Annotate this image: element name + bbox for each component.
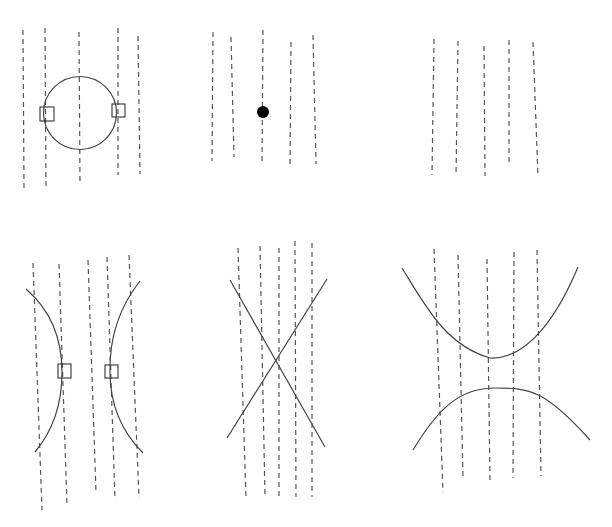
dashed-line: [45, 28, 46, 188]
dashed-line: [434, 249, 443, 492]
dashed-line: [260, 246, 265, 497]
dashed-line: [129, 255, 139, 498]
dashed-line: [537, 250, 541, 476]
dashed-line: [212, 32, 213, 161]
tangency-marker-left: [40, 107, 54, 121]
dashed-line: [231, 37, 234, 157]
panel-separated-arcs: [402, 249, 590, 492]
dashed-line: [23, 30, 24, 188]
dashed-line: [138, 36, 140, 174]
left-arc: [26, 289, 62, 452]
tangency-marker-left: [58, 364, 71, 378]
dashed-line: [432, 39, 434, 175]
panel-empty: [432, 39, 538, 177]
dashed-line: [533, 42, 538, 177]
dashed-line: [313, 35, 316, 164]
point-marker: [257, 106, 269, 118]
right-arc: [110, 281, 143, 453]
diagram-canvas: [0, 0, 612, 527]
dashed-line: [456, 41, 458, 176]
dashed-line: [487, 259, 490, 481]
dashed-line: [79, 32, 80, 184]
dashed-line: [88, 260, 96, 492]
panel-crossing: [227, 241, 327, 498]
dashed-line: [295, 241, 296, 497]
dashed-line: [262, 30, 263, 165]
panel-point: [212, 30, 316, 168]
upper-arc: [402, 267, 578, 358]
dashed-line: [513, 252, 514, 478]
dashed-line: [238, 248, 246, 498]
dashed-line: [458, 255, 463, 479]
dashed-line: [59, 264, 67, 505]
dashed-line: [484, 46, 485, 176]
panel-circle: [23, 28, 140, 188]
dashed-line: [290, 42, 291, 168]
panel-opposing-arcs: [26, 255, 143, 510]
